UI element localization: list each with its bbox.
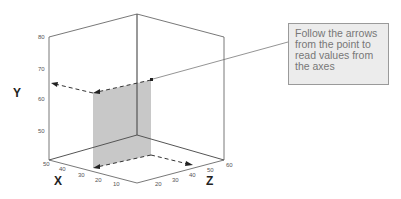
svg-text:50: 50	[38, 128, 45, 134]
svg-text:60: 60	[226, 162, 233, 168]
svg-text:30: 30	[172, 177, 179, 183]
callout-box: Follow the arrows from the point to read…	[288, 23, 389, 85]
z-axis-ticks: 20 30 40 50 60	[155, 162, 233, 187]
svg-text:20: 20	[155, 181, 162, 187]
shaded-plane	[93, 80, 151, 168]
svg-text:20: 20	[95, 177, 102, 183]
z-axis-label: Z	[206, 174, 213, 188]
svg-text:40: 40	[189, 172, 196, 178]
x-axis-label: X	[54, 174, 62, 188]
svg-text:80: 80	[38, 34, 45, 40]
callout-leader-line	[153, 42, 288, 79]
svg-text:60: 60	[38, 96, 45, 102]
y-axis-ticks: 80 70 60 50	[38, 34, 45, 134]
callout-text: Follow the arrows from the point to read…	[295, 27, 377, 72]
y-axis-label: Y	[13, 86, 21, 100]
svg-text:10: 10	[113, 181, 120, 187]
data-point	[150, 78, 153, 81]
svg-text:50: 50	[207, 167, 214, 173]
svg-text:30: 30	[78, 172, 85, 178]
svg-text:50: 50	[43, 161, 50, 167]
svg-text:70: 70	[38, 66, 45, 72]
svg-text:40: 40	[59, 166, 66, 172]
